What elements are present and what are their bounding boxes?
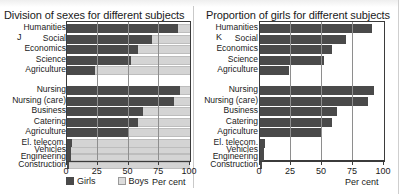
plot-area-left [66,21,191,161]
bar-segment-girls [260,66,289,75]
x-axis-tick-label: 25 [92,166,102,176]
y-axis-label: Agriculture [217,65,258,74]
bar-segment-girls [67,147,71,154]
y-axis-label: Nursing [37,85,66,94]
bar-segment-boys [174,97,190,106]
bar-segment-boys [129,128,191,137]
bar-row [67,118,190,127]
chart-title-right: Proportion of girls for different subjec… [206,9,390,21]
y-axis-label: Humanities [215,23,258,32]
bar-row [260,35,384,44]
y-axis-label: Social [43,34,66,43]
x-axis-tick-label: 75 [153,166,163,176]
y-axis-label: Construction [210,160,258,169]
bar-segment-girls [67,24,178,33]
x-axis-tick-label: 100 [181,166,196,176]
gridline [321,22,322,160]
bar-segment-girls [67,86,180,95]
bar-segment-girls [260,154,264,161]
bar-row [67,35,190,44]
x-axis-tick [97,161,98,165]
legend-label-girls: Girls [77,176,96,186]
bar-segment-girls [260,86,374,95]
bar-segment-girls [260,107,337,116]
bar-row [260,107,384,116]
y-axis-label: Social [235,34,258,43]
legend-label-boys: Boys [129,176,149,186]
bar-row [67,24,190,33]
bar-row [260,86,384,95]
bar-segment-boys [131,56,190,65]
x-axis-tick [189,161,190,165]
y-axis-label: Catering [34,117,66,126]
bar-segment-boys [178,24,190,33]
x-axis-right [259,161,385,162]
legend-item-boys: Boys [118,176,149,186]
y-axis-label: Humanities [23,23,66,32]
y-axis-label: Science [36,55,66,64]
x-axis-tick [321,161,322,165]
y-axis-label: Business [32,106,67,115]
bar-segment-girls [260,24,372,33]
bar-row [67,147,190,154]
y-axis-label: Agriculture [217,127,258,136]
bar-row [260,147,384,154]
bar-segment-boys [71,154,190,161]
x-axis-tick-label: 0 [63,166,68,176]
bar-row [260,97,384,106]
y-axis-label: Agriculture [25,127,66,136]
legend-swatch-girls [66,177,74,185]
x-axis-tick [352,161,353,165]
x-axis-title-left: Per cent [152,177,186,187]
chart-title-left: Division of sexes for different subjects [4,9,184,21]
chart-panel-division-of-sexes: Division of sexes for different subjects… [0,0,199,194]
bar-segment-girls [260,56,324,65]
bar-segment-boys [138,118,190,127]
x-axis-tick [290,161,291,165]
x-axis-tick [128,161,129,165]
x-axis-tick [383,161,384,165]
x-axis-tick [259,161,260,165]
bar-row [260,128,384,137]
bar-row [67,107,190,116]
gridline [97,22,98,160]
bar-segment-girls [67,56,131,65]
y-axis-label: Nursing (care) [12,96,66,105]
bar-row [67,154,190,161]
bar-row [67,45,190,54]
bar-segment-girls [260,147,264,154]
legend-swatch-boys [118,177,126,185]
bar-segment-girls [260,128,322,137]
x-axis-tick [66,161,67,165]
bar-row [260,24,384,33]
gridline [128,22,129,160]
y-axis-label: Economics [216,44,258,53]
bar-row [260,56,384,65]
bar-row [67,86,190,95]
x-axis-tick-label: 75 [347,166,357,176]
x-axis-tick-label: 100 [375,166,390,176]
bar-row [260,66,384,75]
x-axis-left [66,161,191,162]
x-axis-tick [158,161,159,165]
bar-segment-girls [67,107,143,116]
y-axis-label: Business [224,106,259,115]
y-axis-label: Nursing [229,85,258,94]
gridline [290,22,291,160]
chart-panel-proportion-of-girls: Proportion of girls for different subjec… [199,0,399,194]
bar-segment-boys [143,107,190,116]
plot-area-right [259,21,385,161]
x-axis-tick-label: 50 [316,166,326,176]
legend-item-girls: Girls [66,176,96,186]
bar-segment-girls [67,35,152,44]
y-axis-label: Nursing (care) [204,96,258,105]
bar-segment-boys [180,86,190,95]
x-axis-tick-label: 0 [256,166,261,176]
y-axis-label: Construction [18,160,66,169]
bar-segment-girls [67,154,71,161]
x-axis-tick-label: 50 [122,166,132,176]
gridline [352,22,353,160]
bar-segment-boys [71,147,190,154]
bar-segment-girls [67,128,129,137]
y-axis-label: Science [228,55,258,64]
